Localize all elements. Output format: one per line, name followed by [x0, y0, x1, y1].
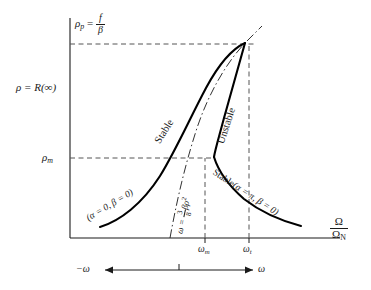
positive-omega-label: ω	[258, 264, 265, 274]
omega-m-sub: m	[205, 248, 210, 255]
f-over-beta-fraction: f β	[96, 13, 105, 35]
left-arrow-icon	[105, 267, 113, 274]
right-arrow-icon	[245, 267, 253, 274]
x-axis-denominator: ΩN	[330, 229, 348, 243]
y-axis-label: ρ = R(∞)	[16, 82, 56, 93]
negative-omega-label: −ω	[76, 264, 90, 274]
rho-p-subscript: p	[80, 22, 84, 31]
rho-p-equals: =	[87, 17, 93, 29]
backbone-tail: βρ	[180, 200, 192, 211]
omega-t-base: ω	[243, 244, 250, 254]
fraction-denominator-beta: β	[96, 25, 105, 36]
backbone-prefix: ω =	[174, 218, 187, 234]
rho-p-axis-label: ρp = f β	[75, 13, 105, 35]
fraction-numerator-f: f	[96, 13, 105, 25]
omega-t-sub: t	[250, 248, 252, 255]
omega-ratio-fraction: Ω ΩN	[330, 216, 348, 242]
x-axis-denominator-subscript: N	[340, 233, 346, 242]
stable-right-branch	[214, 157, 301, 226]
omega-m-base: ω	[198, 244, 205, 254]
nonlinear-response-figure: ρp = f β ρ = R(∞) ρm Ω ΩN ωm ωt Stable U…	[0, 0, 371, 290]
x-axis-label: Ω ΩN	[330, 216, 348, 242]
rho-m-subscript: m	[47, 156, 53, 165]
backbone-denominator: 8	[184, 210, 193, 219]
rho-m-axis-label: ρm	[42, 152, 53, 165]
omega-m-tick-label: ωm	[198, 245, 210, 256]
plot-canvas	[0, 0, 371, 290]
omega-t-tick-label: ωt	[243, 245, 252, 256]
